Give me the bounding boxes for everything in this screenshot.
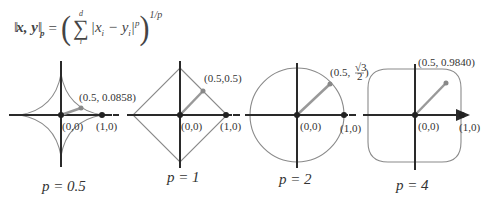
- panel-p-4: (0.5, 0.9840) (0,0) (1,0) p = 4: [363, 56, 480, 193]
- p-label: p = 2: [278, 171, 312, 187]
- unit-label: (1,0): [220, 120, 241, 133]
- vector-to-point: [415, 83, 446, 115]
- origin-dot: [177, 112, 183, 118]
- svg-text:2: 2: [357, 70, 363, 82]
- origin-label: (0,0): [181, 120, 202, 133]
- p-label: p = 1: [166, 169, 200, 185]
- origin-label: (0,0): [62, 120, 83, 133]
- p-label: p = 0.5: [41, 178, 86, 194]
- unit-label: (1,0): [340, 122, 361, 135]
- unit-label: (1,0): [459, 121, 480, 134]
- origin-label: (0,0): [418, 120, 439, 133]
- point-marker: [328, 82, 333, 87]
- point-marker: [79, 106, 84, 111]
- point-label: (0.5,0.5): [204, 72, 242, 85]
- vector-to-point: [61, 108, 81, 115]
- origin-dot: [294, 112, 300, 118]
- svg-text:(0.5,: (0.5,: [330, 66, 350, 79]
- point-label: (0.5, 0.9840): [418, 56, 475, 69]
- panel-p-1: (0.5,0.5) (0,0) (1,0) p = 1: [127, 61, 242, 185]
- unit-ball-diagrams: (0.5, 0.0858) (0,0) (1,0) p = 0.5 (0.5,0…: [0, 0, 492, 199]
- panel-p-0-5: (0.5, 0.0858) (0,0) (1,0) p = 0.5: [9, 61, 136, 194]
- p-label: p = 4: [395, 177, 429, 193]
- point-marker: [201, 89, 206, 94]
- panel-p-2: (0.5, √3 2 ) (0,0) (1,0) p = 2: [245, 61, 369, 187]
- svg-text:): ): [365, 66, 369, 79]
- unit-dot: [341, 112, 347, 118]
- point-marker: [444, 81, 449, 86]
- origin-dot: [58, 112, 64, 118]
- point-label: (0.5, 0.0858): [79, 91, 136, 104]
- origin-dot: [412, 112, 418, 118]
- unit-dot: [223, 112, 229, 118]
- vector-to-point: [180, 91, 203, 115]
- origin-label: (0,0): [300, 120, 321, 133]
- unit-label: (1,0): [96, 120, 117, 133]
- vector-to-point: [297, 84, 330, 115]
- unit-dot: [99, 112, 105, 118]
- point-label: (0.5, √3 2 ): [330, 61, 369, 82]
- unit-dot: [459, 112, 465, 118]
